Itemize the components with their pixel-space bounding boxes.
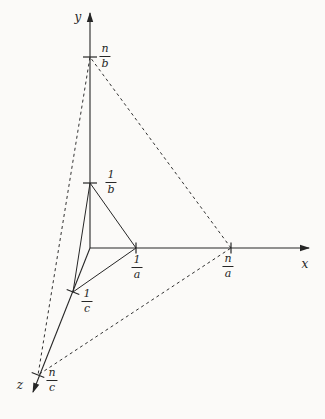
- fraction-numerator: n: [99, 43, 110, 57]
- fraction-denominator: a: [132, 268, 143, 281]
- figure-stage: x y z n b 1 b 1 a n a 1 c n c: [0, 0, 325, 419]
- label-1-over-c: 1 c: [82, 288, 93, 314]
- x-axis-arrowhead: [300, 245, 310, 251]
- fraction-numerator: 1: [82, 288, 93, 302]
- label-1-over-b: 1 b: [105, 169, 116, 195]
- diagram-svg: [0, 0, 325, 419]
- label-n-over-b: n b: [99, 43, 110, 69]
- fraction-denominator: b: [105, 183, 116, 196]
- label-n-over-a: n a: [222, 253, 233, 279]
- outer-plane-dashed: [38, 57, 231, 375]
- inner-plane-solid: [73, 183, 136, 292]
- z-axis: [33, 248, 90, 392]
- label-n-over-c: n c: [46, 367, 57, 393]
- label-1-over-a: 1 a: [132, 254, 143, 280]
- fraction-numerator: 1: [105, 169, 116, 183]
- z-axis-arrowhead: [33, 382, 40, 392]
- fraction-numerator: n: [46, 367, 57, 381]
- fraction-denominator: b: [99, 57, 110, 70]
- fraction-denominator: c: [46, 381, 57, 394]
- y-axis-arrowhead: [87, 12, 93, 22]
- fraction-numerator: n: [222, 253, 233, 267]
- fraction-numerator: 1: [132, 254, 143, 268]
- z-axis-label: z: [17, 379, 23, 391]
- x-axis-label: x: [302, 258, 309, 270]
- y-axis-label: y: [75, 11, 82, 23]
- fraction-denominator: c: [82, 302, 93, 315]
- fraction-denominator: a: [222, 267, 233, 280]
